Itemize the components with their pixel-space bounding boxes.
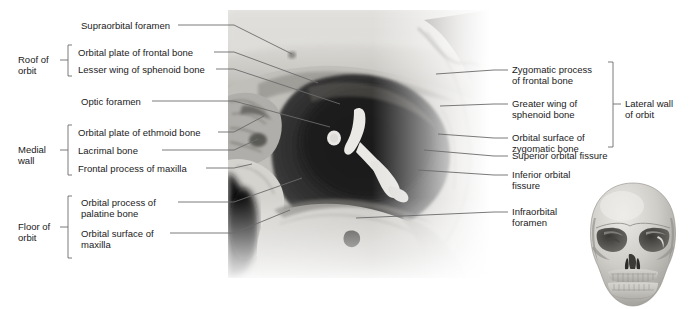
bracket-floor-of-orbit — [68, 196, 72, 258]
skull-inset-mandible — [608, 282, 658, 303]
label-infraorbital-foramen: Infraorbitalforamen — [512, 206, 557, 228]
group-label-lateral-wall-of-orbit: Lateral wallof orbit — [625, 98, 673, 120]
group-label-medial-wall: Medialwall — [18, 144, 46, 166]
label-line-2: foramen — [512, 217, 547, 228]
group-line-2: of orbit — [625, 109, 654, 120]
orbit-photograph — [228, 10, 490, 278]
label-lesser-wing-sphenoid-bone: Lesser wing of sphenoid bone — [78, 64, 205, 75]
label-orbital-plate-frontal-bone: Orbital plate of frontal bone — [78, 47, 193, 58]
group-line-1: Floor of — [18, 221, 50, 232]
group-line-1: Medial — [18, 144, 46, 155]
label-line-2: maxilla — [81, 239, 111, 250]
label-line-1: Inferior orbital — [512, 169, 570, 180]
label-orbital-surface-maxilla: Orbital surface ofmaxilla — [81, 228, 154, 250]
label-supraorbital-foramen: Supraorbital foramen — [81, 20, 170, 31]
label-optic-foramen: Optic foramen — [81, 96, 141, 107]
bracket-roof-of-orbit — [68, 45, 72, 76]
label-line-1: Infraorbital — [512, 206, 557, 217]
skull-inset-render — [578, 180, 688, 309]
orbit-photograph-render — [228, 10, 490, 278]
group-line-1: Roof of — [18, 54, 49, 65]
group-label-floor-of-orbit: Floor oforbit — [18, 221, 50, 243]
label-line-2: of frontal bone — [512, 75, 573, 86]
label-line-1: Orbital surface of — [512, 132, 585, 143]
label-line-2: sphenoid bone — [512, 109, 575, 120]
label-superior-orbital-fissure: Superior orbital fissure — [512, 150, 608, 161]
skull-anterior-view-inset — [578, 180, 688, 309]
bracket-lateral-wall-of-orbit — [608, 62, 613, 147]
orbit-anatomy-figure: Supraorbital foramen Orbital plate of fr… — [0, 0, 693, 309]
label-line-1: Zygomatic process — [512, 64, 592, 75]
label-orbital-process-palatine-bone: Orbital process ofpalatine bone — [81, 197, 156, 219]
label-frontal-process-maxilla: Frontal process of maxilla — [78, 163, 187, 174]
label-inferior-orbital-fissure: Inferior orbitalfissure — [512, 169, 570, 191]
label-zygomatic-process-frontal-bone: Zygomatic processof frontal bone — [512, 64, 592, 86]
bracket-medial-wall — [68, 125, 72, 175]
group-line-1: Lateral wall — [625, 98, 673, 109]
label-line-1: Greater wing of — [512, 98, 577, 109]
label-line-1: Orbital process of — [81, 197, 156, 208]
label-line-2: palatine bone — [81, 208, 138, 219]
label-greater-wing-sphenoid-bone: Greater wing ofsphenoid bone — [512, 98, 577, 120]
label-line-1: Orbital surface of — [81, 228, 154, 239]
group-line-2: wall — [18, 155, 34, 166]
label-orbital-plate-ethmoid-bone: Orbital plate of ethmoid bone — [78, 127, 201, 138]
label-lacrimal-bone: Lacrimal bone — [78, 145, 138, 156]
label-line-2: fissure — [512, 180, 540, 191]
group-line-2: orbit — [18, 65, 36, 76]
group-line-2: orbit — [18, 232, 36, 243]
group-label-roof-of-orbit: Roof oforbit — [18, 54, 49, 76]
